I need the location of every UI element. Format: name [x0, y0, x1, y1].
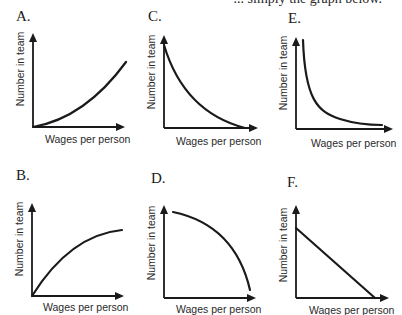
- y-axis-arrow-icon: [160, 205, 168, 214]
- x-axis-label: Wages per person: [176, 303, 262, 315]
- curve: [303, 40, 382, 125]
- x-axis-arrow-icon: [384, 125, 393, 133]
- curve: [32, 230, 122, 296]
- panel-letter: D.: [151, 170, 166, 186]
- panel-a: A. Wages per person Number in team: [14, 8, 131, 145]
- x-axis-label: Wages per person: [176, 135, 262, 147]
- panel-letter: E.: [288, 10, 301, 26]
- y-axis-label: Number in team: [277, 207, 289, 282]
- x-axis-label: Wages per person: [311, 137, 397, 149]
- y-axis-label: Number in team: [145, 205, 157, 280]
- panel-f: F. Wages per person Number in team: [277, 174, 395, 315]
- panel-letter: C.: [148, 8, 162, 24]
- panel-d: D. Wages per person Number in team: [145, 170, 262, 315]
- y-axis-arrow-icon: [28, 203, 36, 212]
- x-axis-arrow-icon: [115, 292, 124, 300]
- x-axis-arrow-icon: [247, 294, 256, 302]
- curve: [173, 212, 250, 290]
- x-axis-arrow-icon: [249, 124, 258, 132]
- panel-letter: A.: [16, 8, 31, 24]
- y-axis-arrow-icon: [29, 33, 37, 42]
- curve: [296, 228, 375, 298]
- y-axis-label: Number in team: [13, 201, 25, 276]
- y-axis-arrow-icon: [292, 205, 300, 214]
- curve: [33, 62, 126, 127]
- y-axis-arrow-icon: [292, 37, 300, 46]
- y-axis-arrow-icon: [160, 35, 168, 44]
- x-axis-label: Wages per person: [43, 301, 129, 313]
- panel-b: B. Wages per person Number in team: [13, 167, 129, 313]
- x-axis-label: Wages per person: [309, 304, 395, 315]
- x-axis-arrow-icon: [380, 294, 389, 302]
- x-axis-arrow-icon: [116, 123, 125, 131]
- curve: [164, 45, 245, 128]
- panel-e: E. Wages per person Number in team: [277, 10, 397, 149]
- graph-grid: A. Wages per person Number in team C. Wa…: [0, 0, 402, 315]
- panel-c: C. Wages per person Number in team: [145, 8, 262, 147]
- y-axis-label: Number in team: [14, 31, 26, 106]
- y-axis-label: Number in team: [277, 35, 289, 110]
- panel-letter: B.: [16, 167, 30, 183]
- y-axis-label: Number in team: [145, 34, 157, 109]
- x-axis-label: Wages per person: [45, 133, 131, 145]
- panel-letter: F.: [287, 174, 298, 190]
